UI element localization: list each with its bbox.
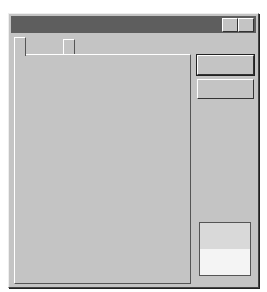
colors-dialog	[8, 13, 259, 288]
current-color-swatch	[200, 249, 250, 275]
tab-standard[interactable]	[14, 37, 26, 56]
color-preview	[199, 222, 251, 276]
standard-panel	[14, 54, 191, 284]
new-color-swatch	[200, 223, 250, 249]
color-honeycomb[interactable]	[15, 55, 190, 283]
close-button[interactable]	[238, 18, 254, 32]
title-bar	[11, 16, 256, 33]
cancel-button[interactable]	[197, 79, 254, 99]
help-button[interactable]	[222, 18, 238, 32]
tab-custom[interactable]	[63, 39, 75, 55]
ok-button[interactable]	[197, 55, 254, 75]
